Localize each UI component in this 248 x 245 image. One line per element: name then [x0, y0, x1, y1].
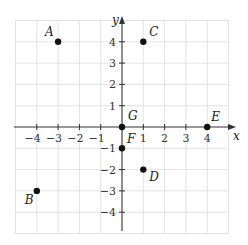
x-tick-label: −3 [46, 132, 62, 145]
x-tick-label: −2 [67, 132, 83, 145]
point-label-d: D [148, 170, 159, 184]
x-tick-label: 3 [182, 132, 189, 145]
coordinate-plane: x y −4−3−2−112344321−1−2−3−4 ABCDEFG [0, 0, 248, 245]
y-tick-label: −1 [100, 142, 116, 155]
y-tick-label: −3 [100, 185, 116, 198]
y-axis-label: y [111, 13, 119, 27]
y-tick-label: 3 [109, 57, 116, 70]
point-c [140, 39, 146, 45]
point-label-b: B [24, 193, 34, 207]
point-label-e: E [210, 110, 220, 124]
point-e [204, 124, 210, 130]
x-tick-label: 1 [140, 132, 147, 145]
point-g [119, 124, 125, 130]
y-axis-arrow-icon [119, 16, 125, 24]
point-b [34, 188, 40, 194]
y-tick-label: 2 [109, 78, 116, 91]
x-tick-label: 2 [161, 132, 168, 145]
point-label-f: F [126, 132, 136, 146]
point-label-c: C [149, 25, 158, 39]
y-tick-label: 4 [109, 36, 116, 49]
point-label-g: G [128, 109, 138, 123]
y-tick-label: −4 [100, 206, 116, 219]
point-a [55, 39, 61, 45]
x-tick-label: −4 [25, 132, 41, 145]
point-f [119, 145, 125, 151]
axes: x y [14, 13, 240, 231]
x-tick-label: 4 [204, 132, 211, 145]
x-axis-label: x [233, 129, 240, 143]
point-d [140, 166, 146, 172]
point-label-a: A [44, 25, 54, 39]
y-tick-label: 1 [109, 100, 116, 113]
y-tick-label: −2 [100, 164, 116, 177]
